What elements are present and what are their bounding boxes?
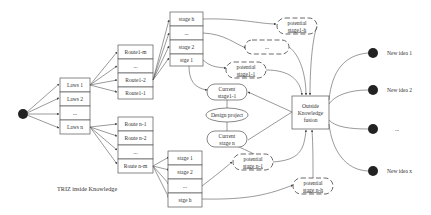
svg-text:potential: potential (287, 20, 307, 26)
idea-label: ... (395, 126, 400, 132)
route-label: Route1-2 (125, 77, 146, 83)
idea-node-icon (368, 124, 378, 134)
law-label: ... (73, 110, 78, 116)
stage-label: stage 1 (177, 155, 193, 161)
idea-label: New idea 1 (387, 50, 412, 56)
stage-label: stge h (179, 197, 192, 203)
route-label: Route n-m (124, 163, 148, 169)
svg-text:stage n-h: stage n-h (303, 187, 323, 193)
law-label: Laws 1 (67, 82, 83, 88)
svg-text:potential: potential (303, 180, 323, 186)
routes-top-column: Route1-m ... Route1-2 Route1-1 (118, 45, 153, 99)
new-ideas: New idea 1 New idea 2 ... New idea x (368, 48, 412, 176)
route-label: Route1-1 (125, 90, 146, 96)
idea-node-icon (368, 48, 378, 58)
idea-label: New idea x (387, 168, 412, 174)
idea-node-icon (368, 166, 378, 176)
laws-column: Laws 1 Laws 2 ... Laws n (60, 78, 90, 134)
current-stage-n: Current stage n (207, 131, 247, 147)
svg-text:...: ... (265, 44, 270, 50)
svg-text:stage n: stage n (219, 140, 235, 146)
svg-text:stage1-1: stage1-1 (237, 71, 256, 77)
stage-label: ... (183, 183, 188, 189)
svg-text:Design project: Design project (211, 112, 244, 118)
svg-text:potential: potential (243, 156, 263, 162)
potential-stage-n-1: potential stage n-1 (233, 154, 273, 170)
svg-text:Current: Current (219, 133, 236, 139)
svg-text:fusion: fusion (304, 117, 318, 123)
svg-text:stage1-h: stage1-h (288, 27, 307, 33)
stage-label: stage h (179, 16, 195, 22)
stage-label: ... (184, 30, 189, 36)
current-stage1-1: Current stage1-1 (207, 84, 247, 100)
stage-label: stage 2 (179, 44, 195, 50)
svg-text:Outside: Outside (302, 103, 320, 109)
root-to-laws-edges (27, 84, 59, 128)
idea-node-icon (368, 85, 378, 95)
stage-label: stage 2 (177, 169, 193, 175)
stage-label: stge 1 (180, 57, 193, 63)
route-label: ... (133, 149, 138, 155)
route-label: Route n-1 (125, 121, 147, 127)
routes-bottom-column: Route n-1 Route n-2 ... Route n-m (118, 117, 153, 173)
laws-to-routes-edges (90, 52, 117, 164)
fusion-to-ideas-edges (329, 53, 368, 171)
potential-stage1-1: potential stage1-1 (226, 62, 266, 78)
law-label: Laws n (67, 124, 83, 130)
route-label: Route1-m (125, 49, 148, 55)
svg-text:Current: Current (219, 86, 236, 92)
svg-text:potential: potential (236, 64, 256, 70)
svg-text:stage n-1: stage n-1 (243, 163, 263, 169)
potential-stage-n-h: potential stage n-h (293, 178, 333, 194)
start-node-icon (18, 109, 28, 119)
potential-stage1-h: potential stage1-h (277, 18, 317, 34)
stages-top-column: stage h ... stage 2 stge 1 (170, 12, 203, 66)
diagram-caption: TRIZ inside Knowledge (57, 185, 117, 192)
triz-diagram: Laws 1 Laws 2 ... Laws n Route1-m ... Ro… (0, 0, 431, 215)
design-project: Design project (206, 108, 248, 122)
stages-bottom-column: stage 1 stage 2 ... stge h (168, 151, 202, 207)
potential-ellipsis: ... (245, 40, 289, 54)
law-label: Laws 2 (67, 96, 83, 102)
outside-knowledge-fusion: Outside Knowledge fusion (292, 96, 329, 129)
svg-text:Knowledge: Knowledge (298, 110, 324, 116)
idea-label: New idea 2 (387, 87, 412, 93)
svg-text:stage1-1: stage1-1 (218, 93, 237, 99)
route-label: Route n-2 (125, 135, 147, 141)
route-label: ... (133, 63, 138, 69)
routes-to-stages-edges (153, 20, 169, 198)
